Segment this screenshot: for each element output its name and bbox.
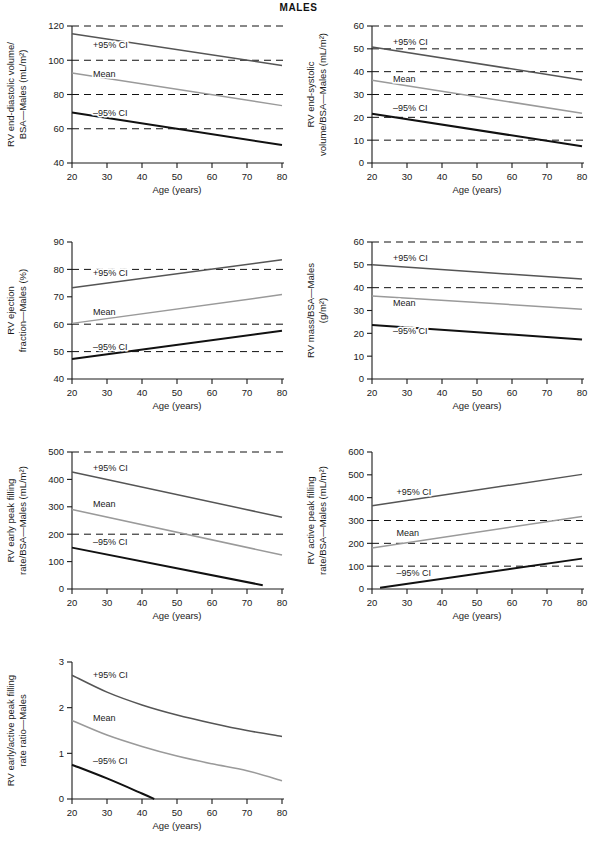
y-axis-label: RV end-diastolic volume/BSA—Males (mL/m²… — [5, 42, 28, 147]
x-tick-label: 30 — [102, 807, 113, 818]
x-axis-label: Age (years) — [152, 610, 201, 621]
y-tick-label: 0 — [59, 583, 64, 594]
x-tick-label: 70 — [242, 597, 253, 608]
y-tick-label: 70 — [53, 291, 64, 302]
x-tick-label: 30 — [402, 597, 413, 608]
x-axis-ticks: 20304050607080 — [67, 799, 288, 818]
svg-text:(g/m²): (g/m²) — [317, 298, 328, 323]
y-tick-label: 500 — [348, 469, 364, 480]
series-line-upper-ci — [372, 265, 582, 279]
x-tick-label: 60 — [207, 807, 218, 818]
series-label-lower: –95% CI — [93, 537, 128, 547]
y-tick-label: 80 — [53, 264, 64, 275]
x-tick-label: 30 — [102, 171, 113, 182]
x-tick-label: 50 — [172, 171, 183, 182]
x-tick-label: 80 — [277, 387, 288, 398]
series-label-mean: Mean — [397, 528, 420, 538]
series-label-upper: +95% CI — [393, 37, 428, 47]
x-tick-label: 40 — [437, 387, 448, 398]
x-axis-label: Age (years) — [152, 400, 201, 411]
x-tick-label: 80 — [577, 171, 588, 182]
series-label-mean: Mean — [393, 74, 416, 84]
y-tick-label: 120 — [48, 20, 64, 31]
y-axis-label: RV early peak fillingrate/BSA—Males (mL/… — [5, 466, 28, 575]
y-tick-label: 400 — [48, 474, 64, 485]
chart-panel-rv-mass-bsa: 203040506070800102030405060Age (years)RV… — [300, 228, 597, 433]
x-tick-label: 50 — [172, 597, 183, 608]
svg-text:rate ratio—Males: rate ratio—Males — [17, 694, 28, 767]
x-tick-label: 30 — [102, 387, 113, 398]
y-tick-label: 60 — [53, 123, 64, 134]
y-tick-label: 10 — [353, 135, 364, 146]
x-tick-label: 70 — [242, 171, 253, 182]
series-label-mean: Mean — [93, 713, 116, 723]
x-tick-label: 60 — [507, 597, 518, 608]
x-axis-ticks: 20304050607080 — [67, 589, 288, 608]
x-axis-ticks: 20304050607080 — [367, 163, 588, 182]
x-tick-label: 50 — [472, 387, 483, 398]
x-tick-label: 80 — [577, 597, 588, 608]
series-label-mean: Mean — [93, 499, 116, 509]
chart-panel-rv-ejection-fraction: 20304050607080405060708090Age (years)RV … — [0, 228, 297, 433]
chart-panel-rv-esv-bsa: 203040506070800102030405060Age (years)RV… — [300, 12, 597, 217]
x-tick-label: 20 — [367, 387, 378, 398]
x-tick-label: 60 — [507, 171, 518, 182]
series-label-lower: –95% CI — [393, 326, 428, 336]
x-tick-label: 70 — [242, 387, 253, 398]
x-axis-label: Age (years) — [452, 184, 501, 195]
x-tick-label: 80 — [277, 597, 288, 608]
x-tick-label: 50 — [472, 597, 483, 608]
svg-text:RV end-diastolic volume/: RV end-diastolic volume/ — [5, 42, 16, 147]
y-axis-ticks: 0102030405060 — [353, 20, 372, 168]
x-axis-label: Age (years) — [452, 400, 501, 411]
series-label-upper: +95% CI — [93, 40, 128, 50]
y-tick-label: 0 — [59, 793, 64, 804]
y-tick-label: 20 — [353, 328, 364, 339]
y-tick-label: 60 — [53, 319, 64, 330]
y-tick-label: 20 — [353, 112, 364, 123]
x-tick-label: 60 — [207, 387, 218, 398]
y-axis-label: RV early/active peak fillingrate ratio—M… — [5, 675, 28, 786]
y-tick-label: 1 — [59, 748, 64, 759]
series-label-lower: –95% CI — [393, 103, 428, 113]
svg-text:RV end-systolic: RV end-systolic — [305, 61, 316, 127]
svg-text:RV early peak filling: RV early peak filling — [5, 479, 16, 563]
svg-text:RV mass/BSA—Males: RV mass/BSA—Males — [305, 263, 316, 358]
svg-text:fraction—Males (%): fraction—Males (%) — [17, 269, 28, 352]
y-tick-label: 50 — [53, 346, 64, 357]
series-line-mean — [72, 510, 282, 555]
y-tick-label: 2 — [59, 702, 64, 713]
y-axis-ticks: 0100200300400500 — [48, 446, 72, 594]
x-tick-label: 40 — [437, 597, 448, 608]
y-tick-label: 30 — [353, 89, 364, 100]
series-label-lower: –95% CI — [93, 108, 128, 118]
y-axis-label: RV end-systolicvolume/BSA—Males (mL/m²) — [305, 33, 328, 156]
x-tick-label: 20 — [67, 171, 78, 182]
x-tick-label: 40 — [437, 171, 448, 182]
chart-panel-rv-early-peak-filling-rate: 203040506070800100200300400500Age (years… — [0, 438, 297, 643]
series-lines — [372, 47, 582, 146]
y-axis-ticks: 406080100120 — [48, 20, 72, 168]
svg-text:RV early/active peak filling: RV early/active peak filling — [5, 675, 16, 786]
y-axis-ticks: 0123 — [59, 656, 72, 804]
gridlines — [372, 242, 584, 288]
svg-text:RV active peak filling: RV active peak filling — [305, 476, 316, 564]
x-axis-ticks: 20304050607080 — [67, 379, 288, 398]
x-tick-label: 50 — [172, 807, 183, 818]
series-label-upper: +95% CI — [397, 487, 432, 497]
y-tick-label: 60 — [353, 20, 364, 31]
series-line-upper-ci — [72, 675, 282, 736]
x-axis-ticks: 20304050607080 — [367, 589, 588, 608]
x-tick-label: 30 — [102, 597, 113, 608]
y-tick-label: 200 — [48, 529, 64, 540]
y-tick-label: 100 — [48, 55, 64, 66]
y-tick-label: 40 — [53, 157, 64, 168]
axes — [72, 662, 284, 799]
x-axis-ticks: 20304050607080 — [367, 379, 588, 398]
y-tick-label: 0 — [359, 583, 364, 594]
x-tick-label: 70 — [542, 597, 553, 608]
y-axis-label: RV ejectionfraction—Males (%) — [5, 269, 28, 352]
y-tick-label: 400 — [348, 492, 364, 503]
y-axis-label: RV mass/BSA—Males(g/m²) — [305, 263, 328, 358]
y-axis-label: RV active peak fillingrate/BSA—Males (mL… — [305, 466, 328, 575]
